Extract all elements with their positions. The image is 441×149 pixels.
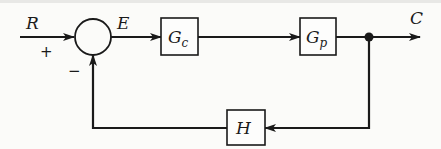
plus-sign: + xyxy=(40,43,53,61)
feedback-label: H xyxy=(235,118,252,138)
block-diagram: R + − E Gc Gp C H xyxy=(0,0,441,149)
feedback-return-arrow xyxy=(93,55,227,128)
summing-junction xyxy=(75,19,111,55)
output-label-c: C xyxy=(410,8,423,28)
error-label-e: E xyxy=(116,13,130,33)
input-label-r: R xyxy=(25,13,39,33)
minus-sign: − xyxy=(68,62,81,80)
